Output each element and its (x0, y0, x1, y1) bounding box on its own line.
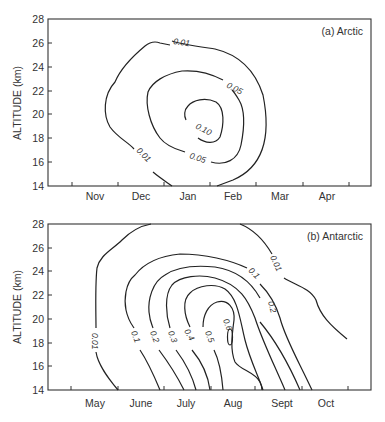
antarctic-x-tick-labels: May June July Aug Sept Oct (85, 397, 334, 409)
y-tick-label: 16 (32, 156, 44, 168)
contour-0.5 (214, 350, 223, 390)
contour-0.01 (96, 224, 151, 328)
month-label: Jan (180, 190, 197, 202)
arctic-y-tick-labels: 28 26 24 22 20 18 16 14 (32, 13, 44, 192)
y-tick-label: 18 (32, 132, 44, 144)
contour-label: 0.05 (188, 150, 207, 165)
y-tick-label: 22 (32, 85, 44, 97)
month-label: Oct (318, 397, 334, 409)
antarctic-y-axis-label: ALTITUDE (km) (11, 270, 23, 344)
contour-label: 0.10 (194, 121, 214, 138)
antarctic-y-tick-labels: 28 26 24 22 20 18 16 14 (32, 218, 44, 396)
figure: 28 26 24 22 20 18 16 14 ALTITUDE (km) No… (0, 0, 385, 422)
y-tick-label: 22 (32, 289, 44, 301)
antarctic-contour-labels: 0.01 0.01 0.1 0.1 0.2 0.2 0.3 0.4 0.5 0.… (90, 254, 284, 350)
arctic-y-axis-label: ALTITUDE (km) (11, 66, 23, 140)
month-label: Nov (86, 190, 105, 202)
month-label: July (177, 397, 196, 409)
contour-0.01 (240, 224, 272, 254)
contour-label: 0.01 (135, 145, 154, 164)
arctic-y-ticks (48, 43, 52, 162)
y-tick-label: 14 (32, 180, 44, 192)
y-tick-label: 26 (32, 37, 44, 49)
y-tick-label: 20 (32, 313, 44, 325)
antarctic-panel: 28 26 24 22 20 18 16 14 ALTITUDE (km) Ma… (11, 218, 371, 409)
contour-label: 0.01 (90, 333, 100, 350)
arctic-x-ticks (72, 182, 349, 186)
month-label: Mar (271, 190, 290, 202)
contour-0.01 (96, 352, 118, 390)
contour-0.05 (211, 90, 244, 163)
contour-0.1 (140, 350, 160, 390)
contour-0.01 (172, 41, 266, 186)
arctic-panel-title: (a) Arctic (322, 25, 363, 37)
arctic-contours (105, 41, 266, 186)
contour-label: 0.1 (247, 265, 263, 281)
antarctic-contours (96, 224, 347, 390)
antarctic-y-ticks (48, 248, 52, 366)
y-tick-label: 24 (32, 61, 44, 73)
y-tick-label: 28 (32, 218, 44, 230)
y-tick-label: 18 (32, 337, 44, 349)
contour-label: 0.4 (182, 327, 197, 342)
month-label: May (85, 397, 106, 409)
month-label: Dec (132, 190, 151, 202)
y-tick-label: 26 (32, 242, 44, 254)
contour-0.01 (105, 42, 170, 149)
contour-label: 0.5 (203, 329, 217, 344)
month-label: Aug (224, 397, 243, 409)
contour-0.01 (153, 172, 172, 186)
contour-0.1 (260, 284, 312, 390)
arctic-plot-frame (48, 19, 371, 186)
contour-label: 0.3 (166, 329, 180, 344)
contour-label: 0.1 (129, 329, 143, 344)
contour-0.10 (185, 99, 223, 142)
arctic-panel: 28 26 24 22 20 18 16 14 ALTITUDE (km) No… (11, 13, 371, 202)
contour-0.3 (176, 350, 196, 390)
y-tick-label: 28 (32, 13, 44, 25)
arctic-contour-labels: 0.01 0.01 0.05 0.05 0.10 (135, 36, 245, 165)
month-label: Sept (271, 397, 293, 409)
contour-label: 0.2 (266, 300, 279, 314)
y-tick-label: 20 (32, 108, 44, 120)
month-label: Apr (319, 190, 336, 202)
y-tick-label: 16 (32, 360, 44, 372)
month-label: June (130, 397, 153, 409)
contour-label: 0.2 (148, 329, 162, 344)
contour-0.01 (284, 278, 347, 339)
arctic-x-tick-labels: Nov Dec Jan Feb Mar Apr (86, 190, 336, 202)
y-tick-label: 24 (32, 265, 44, 277)
contour-label: 0.01 (173, 36, 191, 48)
month-label: Feb (224, 190, 242, 202)
y-tick-label: 14 (32, 384, 44, 396)
antarctic-panel-title: (b) Antarctic (307, 230, 363, 242)
contour-label: 0.01 (268, 254, 284, 273)
